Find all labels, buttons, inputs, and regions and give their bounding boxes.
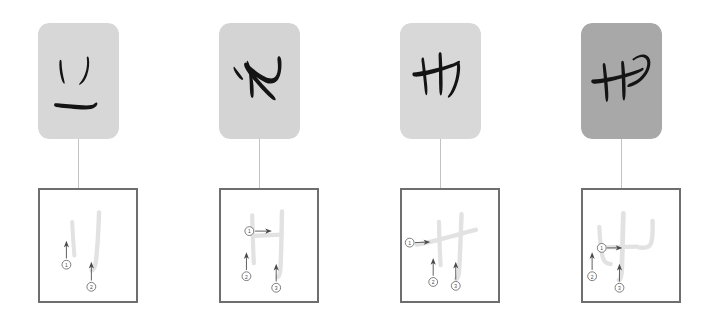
stroke-order-marker-1: 1: [405, 238, 414, 247]
stroke-traces-1: [72, 212, 99, 270]
thumbnail-background-1: [38, 23, 119, 139]
stroke-order-marker-1: 1: [62, 260, 71, 269]
stroke-order-box-1[interactable]: 1 2: [38, 188, 138, 303]
panel-2: 1 2 3: [181, 0, 361, 326]
stroke-order-number: 1: [248, 228, 251, 234]
stroke-arrow-2: [431, 258, 436, 276]
stroke-order-number: 1: [65, 262, 68, 268]
stroke-order-marker-2: 2: [588, 272, 597, 281]
panel-3: 1 2 3: [362, 0, 542, 326]
connector-line-4: [621, 139, 622, 188]
connector-line-1: [78, 139, 79, 188]
stroke-arrow-1: [64, 241, 69, 259]
stroke-order-marker-3: 3: [451, 281, 460, 290]
stroke-traces-4: [599, 213, 652, 280]
stroke-order-number: 1: [600, 245, 603, 251]
stroke-arrow-1: [255, 229, 272, 234]
connector-line-3: [440, 139, 441, 188]
stroke-order-number: 2: [591, 274, 594, 280]
handwritten-character-1[interactable]: [38, 23, 119, 139]
connector-line-2: [259, 139, 260, 188]
stroke-order-box-2[interactable]: 1 2 3: [219, 188, 319, 303]
stroke-order-box-4[interactable]: 1 2 3: [581, 188, 681, 303]
handwritten-character-3[interactable]: [400, 23, 481, 139]
stroke-order-box-3[interactable]: 1 2 3: [400, 188, 500, 303]
stroke-order-number: 3: [454, 283, 457, 289]
stroke-order-marker-1: 1: [597, 243, 606, 252]
stroke-order-marker-2: 2: [242, 272, 251, 281]
panel-4: 1 2 3: [543, 0, 723, 326]
stroke-order-marker-3: 3: [615, 283, 624, 292]
stroke-order-number: 3: [618, 285, 621, 291]
stroke-order-number: 1: [408, 240, 411, 246]
stroke-order-marker-1: 1: [245, 227, 254, 236]
stroke-order-marker-3: 3: [272, 283, 281, 292]
stroke-order-marker-2: 2: [87, 282, 96, 291]
stroke-arrow-2: [590, 252, 595, 270]
stroke-order-figure: 1 2: [0, 0, 723, 326]
panel-1: 1 2: [0, 0, 180, 326]
stroke-traces-3: [417, 214, 476, 279]
handwritten-character-2[interactable]: [219, 23, 300, 139]
stroke-order-number: 2: [432, 279, 435, 285]
stroke-order-number: 3: [275, 285, 278, 291]
stroke-arrow-2: [244, 252, 249, 270]
stroke-order-number: 2: [245, 274, 248, 280]
stroke-order-marker-2: 2: [429, 278, 438, 287]
stroke-order-number: 2: [90, 284, 93, 290]
handwritten-character-4[interactable]: [581, 23, 662, 139]
